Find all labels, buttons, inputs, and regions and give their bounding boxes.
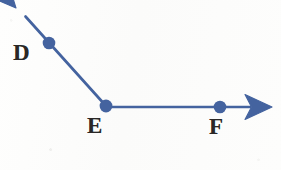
ray-segment-ed — [26, 17, 107, 107]
point-label-e: E — [87, 114, 102, 137]
angle-figure — [0, 0, 281, 170]
point-f-dot — [214, 101, 227, 114]
point-label-f: F — [209, 115, 223, 138]
point-label-d: D — [13, 41, 30, 64]
diagram-canvas: D E F — [0, 0, 281, 170]
point-d-dot — [43, 37, 56, 50]
arrowhead-d-icon — [0, 0, 25, 16]
point-e-dot — [100, 100, 113, 113]
